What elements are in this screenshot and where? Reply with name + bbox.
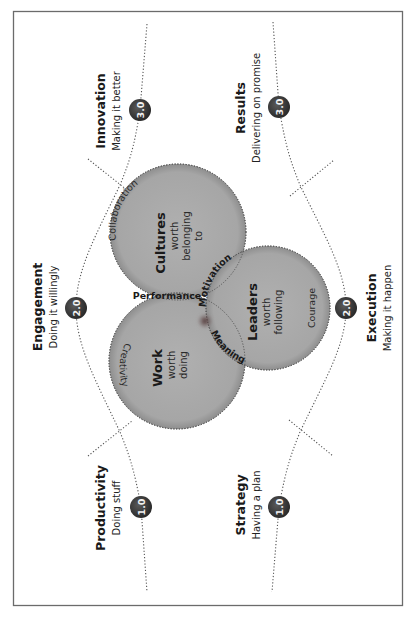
stage-title-strategy: Strategy: [233, 474, 248, 535]
stage-subtitle-innovation: Making it better: [111, 70, 122, 151]
badge-strategy: 1.0: [268, 496, 290, 518]
svg-text:1.0: 1.0: [274, 498, 285, 515]
circle-sub-cultures-3: to: [193, 231, 204, 241]
stage-title-innovation: Innovation: [93, 73, 108, 148]
diagram-canvas: 3.0 2.0 1.0 3.0 2.0 1.0 Innovation Makin…: [0, 0, 412, 617]
circle-title-leaders: Leaders: [245, 283, 260, 341]
badge-innovation: 3.0: [129, 99, 151, 121]
badge-productivity: 1.0: [130, 496, 152, 518]
badge-results: 3.0: [268, 96, 290, 118]
circle-title-work: Work: [150, 349, 165, 387]
stage-subtitle-strategy: Having a plan: [251, 470, 262, 539]
badge-execution: 2.0: [335, 297, 357, 319]
stage-title-results: Results: [233, 82, 248, 134]
svg-text:2.0: 2.0: [341, 299, 352, 316]
circle-sub-cultures-2: belonging: [181, 211, 192, 261]
svg-text:2.0: 2.0: [71, 299, 82, 316]
stage-title-engagement: Engagement: [30, 263, 45, 352]
circle-sub-work-1: worth: [166, 351, 177, 380]
svg-text:3.0: 3.0: [135, 101, 146, 118]
focus-dot: [198, 314, 212, 328]
circle-sub-leaders-2: following: [273, 290, 284, 335]
stage-title-productivity: Productivity: [93, 465, 108, 551]
stage-title-execution: Execution: [364, 273, 379, 342]
label-performance: Performance: [133, 290, 202, 301]
circle-sub-work-2: doing: [178, 351, 189, 379]
stage-subtitle-results: Delivering on promise: [251, 53, 262, 163]
circle-title-cultures: Cultures: [153, 212, 168, 274]
stage-subtitle-engagement: Doing it willingly: [48, 265, 59, 348]
circle-sub-leaders-1: worth: [261, 298, 272, 327]
stage-subtitle-execution: Making it happen: [382, 265, 393, 352]
label-courage: Courage: [306, 288, 317, 328]
stage-subtitle-productivity: Doing stuff: [111, 479, 122, 535]
circle-sub-cultures-1: worth: [169, 222, 180, 251]
svg-text:1.0: 1.0: [136, 498, 147, 515]
svg-text:3.0: 3.0: [274, 98, 285, 115]
badge-engagement: 2.0: [65, 297, 87, 319]
